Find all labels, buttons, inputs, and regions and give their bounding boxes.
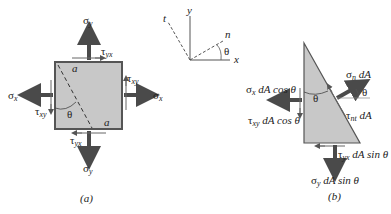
sigma-x-left-label: σx — [8, 89, 18, 103]
caption-a: (a) — [80, 192, 93, 205]
theta-label-a: θ — [67, 108, 72, 120]
sigma-y-dA-sin-label: σy dA sin θ — [311, 174, 360, 188]
plane-a-bottom-label: a — [104, 116, 110, 128]
tau-yx-dA-sin-label: τyx dA sin θ — [338, 148, 389, 162]
figure-b: σn dA θ θ σx dA cos θ τxy dA cos θ τnt d… — [246, 43, 389, 203]
stress-element — [55, 62, 122, 129]
plane-a-top-label: a — [72, 62, 78, 74]
y-axis-label: y — [186, 4, 192, 16]
tau-nt-dA-label: τnt dA — [346, 109, 372, 123]
tau-yx-top-label: τyx — [101, 45, 113, 59]
sigma-y-bottom-label: σy — [83, 162, 93, 176]
figure-a: σy σy σx σx τyx τyx τxy τxy a a θ (a) — [8, 14, 163, 205]
axes-theta-arc — [217, 45, 221, 60]
stress-transformation-diagram: σy σy σx σx τyx τyx τxy τxy a a θ (a) y … — [0, 0, 391, 214]
sigma-n-arrow — [337, 85, 360, 98]
tau-yx-bottom-label: τyx — [70, 134, 82, 148]
sigma-n-label: σn dA — [346, 68, 371, 82]
coordinate-axes: y x t n θ — [163, 4, 239, 65]
theta-inner-label: θ — [313, 92, 318, 104]
axes-theta-label: θ — [224, 45, 229, 57]
sigma-x-dA-cos-label: σx dA cos θ — [246, 83, 296, 97]
x-axis-label: x — [233, 53, 239, 65]
theta-outer-label: θ — [362, 86, 367, 98]
n-axis-label: n — [225, 28, 231, 40]
sigma-x-right-label: σx — [153, 89, 163, 103]
tau-xy-dA-cos-label: τxy dA cos θ — [248, 114, 300, 128]
n-axis — [190, 41, 223, 60]
tau-xy-left-label: τxy — [35, 105, 47, 119]
t-axis-label: t — [163, 12, 167, 24]
sigma-y-top-label: σy — [83, 14, 93, 28]
tau-xy-right-label: τxy — [127, 72, 139, 86]
caption-b: (b) — [328, 190, 341, 203]
t-axis — [168, 22, 190, 60]
